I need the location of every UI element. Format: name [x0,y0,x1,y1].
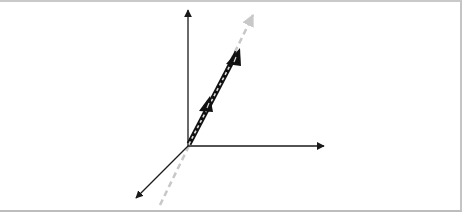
depth-axis [136,146,188,198]
vector-arrowhead-upper [226,48,241,66]
vector [189,48,241,144]
coordinate-diagram [0,0,463,214]
